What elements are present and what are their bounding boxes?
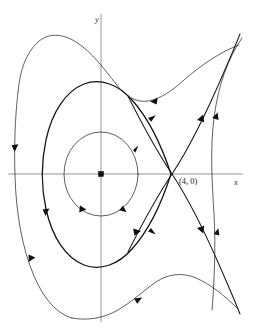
outer-closed-orbit-arrow-lower-left [29,255,36,262]
phase-portrait-canvas: y x (4, 0) [0,0,253,335]
separatrix-arrow-upper-right [197,115,204,123]
middle-closed-orbit-path [42,82,171,268]
separatrix-lower-right-path [128,96,240,314]
upper-open-trajectory [18,35,239,104]
upper-open-trajectory-arrow [150,98,158,105]
outer-closed-orbit-left-path [15,92,72,318]
equilibria-group [99,172,104,177]
outer-closed-orbit [12,92,72,318]
separatrix-arrow-lower-right [197,226,204,234]
phase-portrait-figure: y x (4, 0) [0,0,253,335]
saddle-point-label: (4, 0) [179,176,198,186]
outer-right-trajectory-arrow-upper [212,112,218,120]
middle-closed-orbit-arrow-upper-right [148,115,156,122]
lower-open-trajectory-arrow [134,297,142,303]
inner-closed-orbit-arrow-lower-left [79,206,86,213]
middle-closed-orbit-arrow-left [43,208,50,216]
y-axis-label: y [94,14,99,24]
center-equilibrium-dot [99,172,104,177]
middle-closed-orbit [42,82,171,268]
middle-closed-orbit-arrow-lower-right [148,228,156,234]
outer-closed-orbit-arrow-left [12,144,19,152]
inner-closed-orbit-arrow-lower-right [119,206,126,213]
separatrix-upper-right-path [128,34,240,252]
inner-closed-orbit-arrow-upper-right [133,146,138,153]
x-axis-label: x [233,177,238,187]
axes-group [8,14,243,322]
upper-open-trajectory-path [18,35,239,101]
